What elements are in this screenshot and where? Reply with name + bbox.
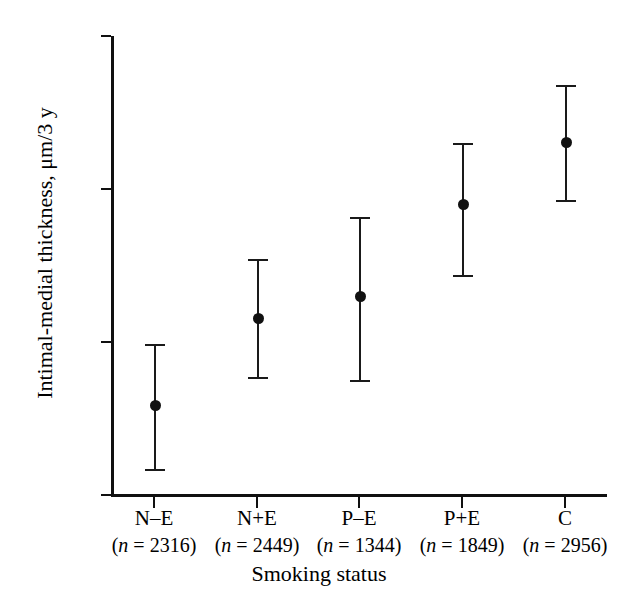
y-tick-30: [101, 341, 111, 343]
error-bar-cap-upper: [350, 217, 370, 219]
x-category-name: C: [495, 506, 635, 530]
x-category-count: (n = 2956): [495, 533, 635, 557]
error-bar-cap-upper: [145, 344, 165, 346]
error-bar-cap-lower: [350, 380, 370, 382]
y-axis-line: [111, 36, 114, 496]
x-axis-title-text: Smoking status: [251, 561, 386, 586]
y-axis-title-text: Intimal-medial thickness, μm/3 y: [32, 107, 57, 399]
data-point-marker: [355, 291, 366, 302]
chart-figure: Intimal-medial thickness, μm/3 y 2030405…: [0, 0, 638, 611]
error-bar-cap-upper: [556, 85, 576, 87]
x-category-label-4: C(n = 2956): [495, 506, 635, 557]
y-tick-50: [101, 35, 111, 37]
x-axis-title: Smoking status: [0, 561, 638, 587]
data-point-marker: [458, 199, 469, 210]
error-bar-cap-lower: [556, 200, 576, 202]
error-bar-cap-lower: [248, 377, 268, 379]
error-bar-cap-upper: [248, 259, 268, 261]
y-axis-title: Intimal-medial thickness, μm/3 y: [32, 23, 58, 483]
y-tick-40: [101, 188, 111, 190]
data-point-marker: [150, 400, 161, 411]
y-tick-20: [101, 494, 111, 496]
data-point-marker: [253, 313, 264, 324]
data-point-marker: [561, 137, 572, 148]
error-bar-cap-lower: [453, 275, 473, 277]
error-bar-cap-upper: [453, 143, 473, 145]
error-bar-cap-lower: [145, 469, 165, 471]
